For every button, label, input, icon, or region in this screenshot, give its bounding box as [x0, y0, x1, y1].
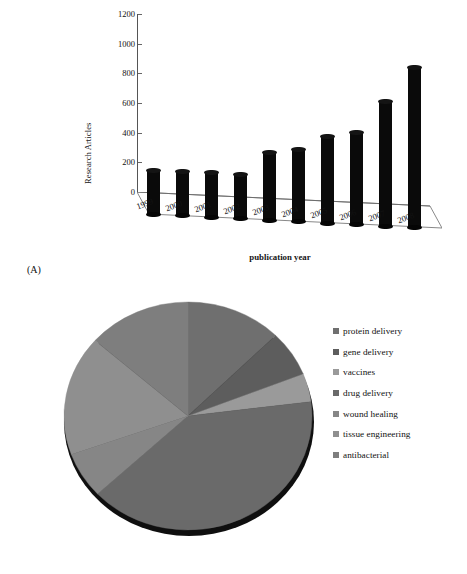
bar-cap	[175, 169, 190, 174]
y-tick-label: 800	[122, 69, 135, 78]
legend-label: wound healing	[343, 409, 398, 419]
bar-chart-x-tick-labels: 1999200020012002200320042005200620072008	[137, 196, 457, 252]
legend-item-gene-delivery: gene delivery	[333, 342, 465, 363]
y-tick-label: 0	[131, 188, 135, 197]
legend-label: vaccines	[343, 367, 375, 377]
x-tick-label-2008: 2008	[396, 210, 416, 225]
x-tick-label-2002: 2002	[222, 201, 242, 216]
x-tick-label-1999: 1999	[135, 196, 155, 211]
panel-a-caption: (A)	[27, 264, 41, 275]
y-tick-label: 600	[122, 99, 135, 108]
pie-chart-svg	[62, 300, 314, 532]
legend-swatch-icon	[333, 328, 339, 334]
y-tick-label: 200	[122, 158, 135, 167]
y-tick-label: 1000	[118, 39, 135, 48]
x-tick-label-2007: 2007	[367, 208, 387, 223]
legend-item-antibacterial: antibacterial	[333, 445, 465, 466]
bar-cap	[291, 147, 306, 152]
panel-a-bar-chart: Research Articles 020040060080010001200 …	[0, 0, 467, 290]
bar-cap	[320, 134, 335, 139]
legend-label: antibacterial	[343, 450, 389, 460]
y-axis-title-text: Research Articles	[83, 123, 93, 184]
legend-swatch-icon	[333, 431, 339, 437]
legend-swatch-icon	[333, 411, 339, 417]
x-tick-label-2000: 2000	[164, 198, 184, 213]
legend-item-protein-delivery: protein delivery	[333, 321, 465, 342]
bar-cap	[262, 150, 277, 155]
bar-chart-y-axis-title: Research Articles	[83, 0, 97, 66]
x-tick-label-2006: 2006	[338, 207, 358, 222]
figure-root: Research Articles 020040060080010001200 …	[0, 0, 467, 574]
x-tick-label-2003: 2003	[251, 202, 271, 217]
x-tick-label-2001: 2001	[193, 199, 213, 214]
bar-cap	[349, 130, 364, 135]
y-tick-label: 1200	[118, 10, 135, 19]
legend-swatch-icon	[333, 452, 339, 458]
legend-label: protein delivery	[343, 326, 402, 336]
pie-chart-plot-area	[56, 294, 322, 544]
legend-item-drug-delivery: drug delivery	[333, 383, 465, 404]
panel-b-pie-chart: protein deliverygene deliveryvaccinesdru…	[0, 290, 467, 574]
legend-item-tissue-engineering: tissue engineering	[333, 424, 465, 445]
legend-label: gene delivery	[343, 347, 393, 357]
legend-item-wound-healing: wound healing	[333, 403, 465, 424]
bar-cap	[378, 99, 393, 104]
pie-chart-legend: protein deliverygene deliveryvaccinesdru…	[333, 321, 465, 465]
y-tick-label: 400	[122, 128, 135, 137]
legend-label: drug delivery	[343, 388, 393, 398]
bar-chart-y-tick-labels: 020040060080010001200	[99, 14, 135, 194]
legend-swatch-icon	[333, 390, 339, 396]
legend-item-vaccines: vaccines	[333, 362, 465, 383]
bar-cap	[204, 170, 219, 175]
x-tick-label-2004: 2004	[280, 204, 300, 219]
bar-cap	[146, 168, 161, 173]
legend-swatch-icon	[333, 369, 339, 375]
bar-cap	[233, 172, 248, 177]
bar-cap	[407, 65, 422, 70]
legend-swatch-icon	[333, 349, 339, 355]
bar-chart-x-axis-title: publication year	[180, 252, 380, 262]
bar-chart-plot-area: Research Articles 020040060080010001200 …	[85, 14, 435, 264]
legend-label: tissue engineering	[343, 429, 411, 439]
x-tick-label-2005: 2005	[309, 205, 329, 220]
